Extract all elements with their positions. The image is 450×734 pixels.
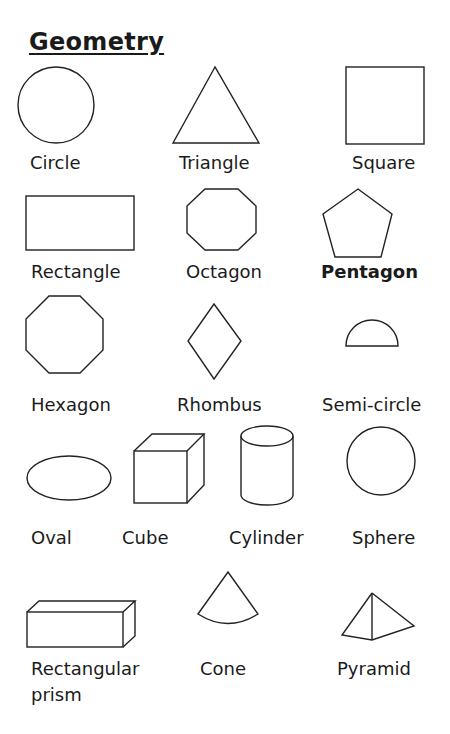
shape-label-pyramid: Pyramid bbox=[337, 658, 411, 680]
shape-label-octagon: Octagon bbox=[186, 261, 262, 283]
hexagon-shape bbox=[25, 295, 105, 375]
rectangular-prism-shape bbox=[26, 600, 138, 650]
cube-shape bbox=[133, 433, 207, 507]
shape-label-cube: Cube bbox=[122, 527, 168, 549]
shape-label-sphere: Sphere bbox=[352, 527, 415, 549]
shape-label-square: Square bbox=[352, 152, 415, 174]
oval-shape bbox=[26, 455, 114, 505]
shape-label-hexagon: Hexagon bbox=[31, 394, 111, 416]
shape-label-triangle: Triangle bbox=[179, 152, 250, 174]
shape-label-rectangle: Rectangle bbox=[31, 261, 121, 283]
page-title: Geometry bbox=[29, 28, 164, 56]
cone-shape bbox=[197, 571, 261, 629]
square-shape bbox=[345, 66, 425, 146]
octagon-shape bbox=[186, 188, 258, 252]
shape-label-rhombus: Rhombus bbox=[177, 394, 262, 416]
pyramid-shape bbox=[341, 592, 417, 642]
semi-circle-shape bbox=[345, 318, 401, 348]
shape-label-cylinder: Cylinder bbox=[229, 527, 304, 549]
shape-label-circle: Circle bbox=[30, 152, 81, 174]
pentagon-shape bbox=[322, 188, 394, 258]
shape-label-pentagon: Pentagon bbox=[321, 261, 418, 283]
shape-label-cone: Cone bbox=[200, 658, 246, 680]
circle-shape bbox=[17, 66, 97, 146]
rhombus-shape bbox=[187, 303, 243, 381]
shape-label-rectangular-prism-line2: prism bbox=[31, 684, 82, 706]
shape-label-semi-circle: Semi-circle bbox=[322, 394, 421, 416]
triangle-shape bbox=[172, 66, 262, 146]
shape-label-oval: Oval bbox=[31, 527, 72, 549]
cylinder-shape bbox=[240, 425, 296, 507]
rectangle-shape bbox=[25, 195, 137, 253]
shape-label-rectangular-prism-line1: Rectangular bbox=[31, 658, 139, 680]
sphere-shape bbox=[346, 426, 418, 498]
